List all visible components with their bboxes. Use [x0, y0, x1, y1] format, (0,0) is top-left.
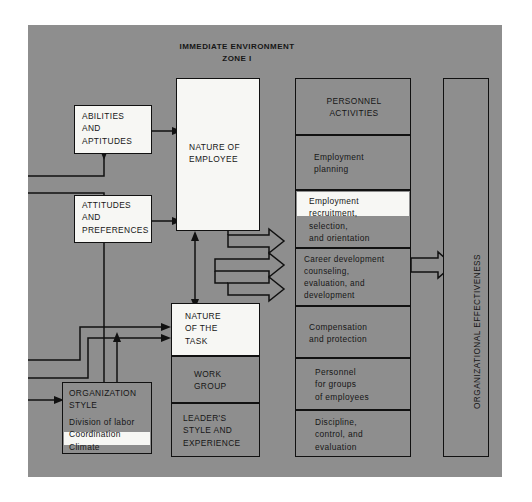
- organizational-effectiveness-label: ORGANIZATIONAL EFFECTIVENESS: [473, 254, 482, 409]
- personnel-header-line2: ACTIVITIES: [296, 107, 412, 119]
- nature-of-the-task-box[interactable]: NATURE OF THE TASK: [171, 303, 260, 356]
- diagram-title-line1: IMMEDIATE ENVIRONMENT: [0, 42, 474, 51]
- leaders-style-line1: LEADER'S: [183, 412, 241, 424]
- activity-4-line-1: for groups: [315, 378, 369, 390]
- personnel-activity-compensation[interactable]: Compensation and protection: [295, 306, 411, 358]
- abilities-line1: ABILITIES: [82, 110, 132, 122]
- activity-3-line-1: and protection: [309, 333, 367, 345]
- personnel-activities-header: PERSONNEL ACTIVITIES: [295, 78, 411, 135]
- personnel-activity-employment-planning[interactable]: Employment planning: [295, 135, 411, 190]
- abilities-line2: AND: [82, 122, 132, 134]
- leaders-style-box[interactable]: LEADER'S STYLE AND EXPERIENCE: [171, 403, 260, 457]
- nature-of-employee-line1: NATURE OF: [189, 141, 240, 153]
- activity-2-line-3: development: [304, 290, 384, 302]
- activity-1-line-0: Employment: [309, 195, 370, 207]
- attitudes-line2: AND: [82, 211, 149, 223]
- personnel-activity-discipline[interactable]: Discipline, control, and evaluation: [295, 410, 411, 457]
- personnel-activity-career-development[interactable]: Career development counseling, evaluatio…: [295, 248, 411, 306]
- org-style-heading2: STYLE: [69, 399, 136, 411]
- activity-2-line-2: evaluation, and: [304, 278, 384, 290]
- abilities-and-aptitudes-box[interactable]: ABILITIES AND APTITUDES: [74, 105, 152, 154]
- attitudes-line1: ATTITUDES: [82, 199, 149, 211]
- activity-1-line-1: recruitment,: [309, 207, 370, 219]
- activity-4-line-2: of employees: [315, 391, 369, 403]
- activity-5-line-1: control, and: [315, 428, 363, 440]
- diagram-title-line2: ZONE I: [0, 54, 474, 63]
- nature-of-task-line3: TASK: [185, 335, 221, 347]
- activity-3-line-0: Compensation: [309, 321, 367, 333]
- personnel-activity-employment-recruitment[interactable]: Employment recruitment, selection, and o…: [295, 190, 411, 248]
- org-style-heading1: ORGANIZATION: [69, 387, 136, 399]
- diagram-canvas: IMMEDIATE ENVIRONMENT ZONE I: [0, 0, 532, 502]
- leaders-style-line2: STYLE AND: [183, 424, 241, 436]
- work-group-line2: GROUP: [194, 380, 226, 392]
- personnel-activity-personnel-for-groups[interactable]: Personnel for groups of employees: [295, 358, 411, 410]
- activity-0-line-0: Employment: [314, 151, 364, 163]
- nature-of-task-line1: NATURE: [185, 310, 221, 322]
- activity-4-line-0: Personnel: [315, 366, 369, 378]
- work-group-line1: WORK: [194, 368, 226, 380]
- activity-2-line-0: Career development: [304, 254, 384, 266]
- org-style-item-0: Division of labor: [69, 416, 135, 428]
- activity-2-line-1: counseling,: [304, 266, 384, 278]
- activity-1-line-2: selection,: [309, 220, 370, 232]
- nature-of-task-line2: OF THE: [185, 322, 221, 334]
- attitudes-line3: PREFERENCES: [82, 224, 149, 236]
- org-style-item-2: Climate: [69, 441, 135, 453]
- activity-5-line-2: evaluation: [315, 441, 363, 453]
- leaders-style-line3: EXPERIENCE: [183, 437, 241, 449]
- nature-of-employee-box[interactable]: NATURE OF EMPLOYEE: [176, 78, 260, 231]
- attitudes-and-preferences-box[interactable]: ATTITUDES AND PREFERENCES: [74, 195, 152, 243]
- work-group-box[interactable]: WORK GROUP: [171, 356, 260, 403]
- organization-style-box[interactable]: ORGANIZATION STYLE Division of labor Coo…: [62, 382, 152, 454]
- abilities-line3: APTITUDES: [82, 135, 132, 147]
- activity-5-line-0: Discipline,: [315, 416, 363, 428]
- org-style-item-1: Coordination: [69, 428, 135, 440]
- nature-of-employee-line2: EMPLOYEE: [189, 153, 240, 165]
- activity-0-line-1: planning: [314, 163, 364, 175]
- organizational-effectiveness-box[interactable]: ORGANIZATIONAL EFFECTIVENESS: [443, 78, 489, 457]
- activity-1-line-3: and orientation: [309, 232, 370, 244]
- personnel-header-line1: PERSONNEL: [296, 95, 412, 107]
